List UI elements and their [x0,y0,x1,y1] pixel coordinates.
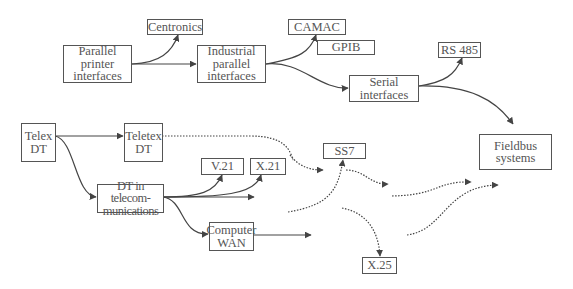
node-dt-in-telecommunications: DT in telecom- munications [97,184,164,213]
node-computer-wan: Computer WAN [209,222,254,251]
node-ss7: SS7 [323,143,366,159]
arrow-teletex-towards-ss7 [290,155,323,170]
arrow-serial-to-fieldbus [419,86,513,124]
arrow-industrial-to-serial [266,64,348,88]
node-industrial-parallel-interfaces: Industrial parallel interfaces [197,45,266,83]
node-parallel-printer-interfaces: Parallel printer interfaces [63,45,132,83]
arrow-dt-to-wan [163,197,208,234]
arrow-dt-to-x21 [163,175,261,197]
node-x25: X.25 [362,257,397,274]
node-rs485: RS 485 [438,42,481,58]
arrow-dt-to-v21 [163,175,222,197]
arrow-telex-to-dt-telecom [55,136,96,197]
node-x21: X.21 [250,158,286,175]
node-centronics: Centronics [147,19,203,35]
node-serial-interfaces: Serial interfaces [349,75,419,102]
arrow-open-to-ss7 [288,160,343,212]
node-teletex-dt: Teletex DT [124,123,163,162]
node-telex-dt: Telex DT [21,123,56,162]
node-camac: CAMAC [288,19,346,35]
node-gpib: GPIB [317,40,375,55]
arrow-open-to-x25 [342,208,380,256]
arrow-ss7-open [346,170,388,184]
arrow-serial-to-rs485 [419,58,462,86]
arrow-open-towards-fieldbus-1 [392,182,471,196]
arrow-open-towards-fieldbus-2 [407,185,498,235]
node-v21: V.21 [201,158,244,175]
arrow-industrial-to-camac [266,35,316,64]
arrow-parallel-to-centronics [132,35,178,64]
node-fieldbus-systems: Fieldbus systems [479,134,552,170]
